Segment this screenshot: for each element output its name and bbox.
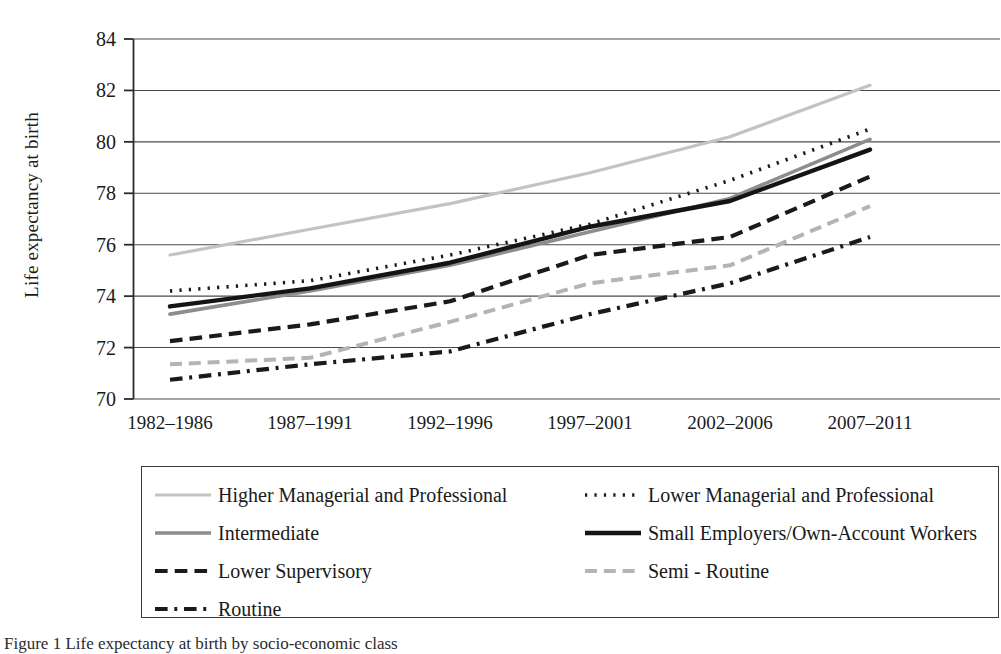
y-tick-label: 82: [96, 79, 116, 101]
legend-item[interactable]: Small Employers/Own-Account Workers: [584, 514, 988, 552]
y-axis-title: Life expectancy at birth: [21, 75, 43, 335]
series-line: [170, 177, 870, 342]
y-axis-ticks: 7072747678808284: [96, 28, 134, 410]
chart-legend: Higher Managerial and ProfessionalLower …: [141, 466, 999, 618]
legend-item[interactable]: Higher Managerial and Professional: [154, 476, 584, 514]
x-tick-label: 1992–1996: [407, 412, 493, 433]
legend-label: Lower Managerial and Professional: [648, 485, 934, 505]
y-tick-label: 70: [96, 388, 116, 410]
legend-swatch-icon: [154, 602, 212, 616]
legend-label: Small Employers/Own-Account Workers: [648, 523, 977, 543]
legend-swatch-icon: [154, 526, 212, 540]
legend-grid: Higher Managerial and ProfessionalLower …: [154, 476, 988, 628]
y-tick-label: 74: [96, 285, 116, 307]
legend-label: Higher Managerial and Professional: [218, 485, 507, 505]
chart-area: Life expectancy at birth 707274767880828…: [0, 0, 1001, 455]
legend-item[interactable]: Lower Supervisory: [154, 552, 584, 590]
line-chart-svg: 7072747678808284 1982–19861987–19911992–…: [0, 0, 1001, 455]
y-tick-label: 78: [96, 182, 116, 204]
legend-label: Lower Supervisory: [218, 561, 372, 581]
x-tick-label: 1987–1991: [267, 412, 353, 433]
legend-swatch-icon: [584, 526, 642, 540]
legend-label: Intermediate: [218, 523, 319, 543]
series-line: [170, 139, 870, 314]
x-axis-ticks: 1982–19861987–19911992–19961997–20012002…: [127, 412, 912, 433]
x-tick-label: 2002–2006: [687, 412, 773, 433]
legend-label: Semi - Routine: [648, 561, 769, 581]
gridlines: [134, 39, 1001, 399]
legend-item[interactable]: Routine: [154, 590, 584, 628]
legend-swatch-icon: [584, 564, 642, 578]
series-line: [170, 129, 870, 291]
y-tick-label: 76: [96, 234, 116, 256]
data-series-group: [170, 85, 870, 379]
x-tick-label: 2007–2011: [828, 412, 913, 433]
legend-swatch-icon: [584, 488, 642, 502]
legend-item[interactable]: Intermediate: [154, 514, 584, 552]
x-tick-label: 1997–2001: [547, 412, 633, 433]
legend-item[interactable]: Semi - Routine: [584, 552, 988, 590]
y-tick-label: 84: [96, 28, 116, 50]
figure-caption: Figure 1 Life expectancy at birth by soc…: [4, 634, 994, 654]
legend-swatch-icon: [154, 488, 212, 502]
x-tick-label: 1982–1986: [127, 412, 213, 433]
legend-label: Routine: [218, 599, 281, 619]
y-tick-label: 80: [96, 131, 116, 153]
y-tick-label: 72: [96, 337, 116, 359]
legend-swatch-icon: [154, 564, 212, 578]
series-line: [170, 85, 870, 255]
series-line: [170, 206, 870, 364]
legend-item[interactable]: Lower Managerial and Professional: [584, 476, 988, 514]
